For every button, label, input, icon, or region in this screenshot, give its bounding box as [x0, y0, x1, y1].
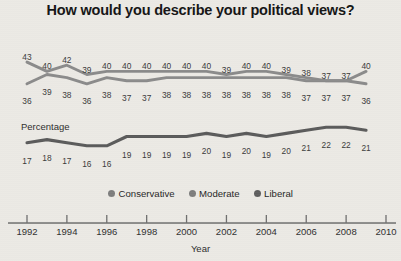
plot-area	[0, 26, 401, 211]
data-label: 40	[102, 62, 111, 70]
data-label: 40	[162, 62, 171, 70]
data-label: 17	[22, 157, 31, 165]
data-label: 22	[321, 141, 330, 149]
data-label: 38	[242, 91, 251, 99]
data-label: 42	[62, 56, 71, 64]
x-tick-label: 2006	[296, 226, 317, 237]
data-label: 40	[42, 62, 51, 70]
data-label: 19	[222, 151, 231, 159]
x-tick-label: 1992	[16, 226, 37, 237]
data-label: 40	[182, 62, 191, 70]
chart-title: How would you describe your political vi…	[0, 2, 401, 18]
data-label: 19	[182, 151, 191, 159]
x-tick-label: 2002	[216, 226, 237, 237]
data-label: 16	[82, 160, 91, 168]
legend-item-conservative[interactable]: Conservative	[108, 188, 175, 199]
data-label: 38	[62, 91, 71, 99]
data-label: 19	[162, 151, 171, 159]
chart-legend: Conservative Moderate Liberal	[0, 188, 401, 199]
data-label: 16	[102, 160, 111, 168]
x-tick-label: 2010	[375, 226, 396, 237]
x-tick-label: 2004	[256, 226, 277, 237]
data-label: 21	[302, 144, 311, 152]
legend-dot-liberal	[254, 190, 261, 197]
data-label: 22	[341, 141, 350, 149]
data-label: 37	[321, 94, 330, 102]
data-label: 39	[42, 88, 51, 96]
legend-dot-moderate	[189, 190, 196, 197]
plot-lines	[0, 26, 401, 211]
x-tick-label: 1996	[96, 226, 117, 237]
data-label: 40	[242, 62, 251, 70]
data-label: 38	[282, 91, 291, 99]
data-label: 38	[182, 91, 191, 99]
data-label: 37	[302, 94, 311, 102]
data-label: 39	[82, 66, 91, 74]
data-label: 38	[262, 91, 271, 99]
data-label: 36	[361, 97, 370, 105]
data-label: 38	[302, 69, 311, 77]
data-label: 17	[62, 157, 71, 165]
data-label: 40	[122, 62, 131, 70]
data-label: 37	[341, 72, 350, 80]
data-label: 40	[142, 62, 151, 70]
legend-label-liberal: Liberal	[264, 188, 293, 199]
x-axis-label: Year	[0, 243, 401, 254]
data-label: 43	[22, 53, 31, 61]
data-label: 37	[122, 94, 131, 102]
data-label: 19	[142, 151, 151, 159]
data-label: 37	[142, 94, 151, 102]
data-label: 40	[361, 62, 370, 70]
data-label: 38	[102, 91, 111, 99]
data-label: 40	[202, 62, 211, 70]
data-label: 19	[122, 151, 131, 159]
legend-item-moderate[interactable]: Moderate	[189, 188, 240, 199]
data-label: 21	[361, 144, 370, 152]
data-label: 20	[242, 147, 251, 155]
data-label: 20	[282, 147, 291, 155]
data-label: 20	[202, 147, 211, 155]
data-label: 38	[162, 91, 171, 99]
legend-item-liberal[interactable]: Liberal	[254, 188, 293, 199]
x-tick-label: 1994	[56, 226, 77, 237]
legend-dot-conservative	[108, 190, 115, 197]
data-label: 39	[282, 66, 291, 74]
data-label: 19	[262, 151, 271, 159]
chart-root: How would you describe your political vi…	[0, 0, 401, 261]
x-tick-label: 1998	[136, 226, 157, 237]
x-tick-label: 2000	[176, 226, 197, 237]
y-axis-label: Percentage	[21, 121, 70, 132]
data-label: 38	[222, 91, 231, 99]
data-label: 37	[341, 94, 350, 102]
data-label: 38	[202, 91, 211, 99]
x-tick-labels: 1992199419961998200020022004200620082010	[0, 226, 401, 240]
legend-label-conservative: Conservative	[119, 188, 175, 199]
data-label: 36	[82, 97, 91, 105]
series-line-liberal	[27, 127, 366, 146]
data-label: 40	[262, 62, 271, 70]
data-label: 18	[42, 154, 51, 162]
x-tick-label: 2008	[336, 226, 357, 237]
legend-label-moderate: Moderate	[199, 188, 240, 199]
data-label: 37	[321, 72, 330, 80]
data-label: 36	[22, 97, 31, 105]
data-label: 39	[222, 66, 231, 74]
